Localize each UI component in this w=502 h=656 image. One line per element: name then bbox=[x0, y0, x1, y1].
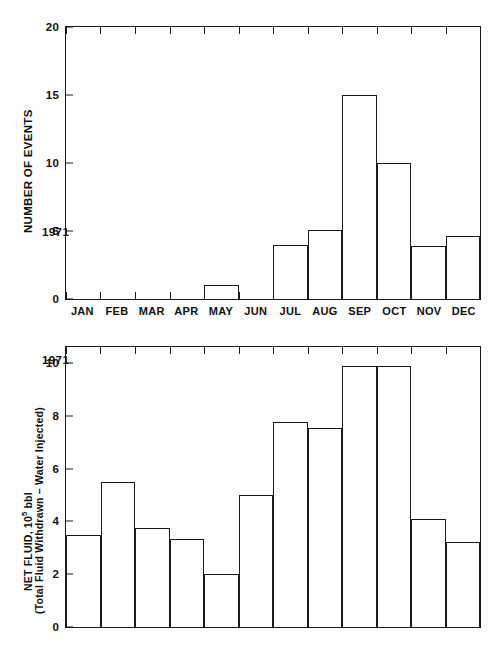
x-tick-mark bbox=[377, 620, 378, 627]
x-tick-mark bbox=[239, 292, 240, 299]
x-tick-mark bbox=[446, 27, 447, 34]
x-tick-mark bbox=[135, 347, 136, 354]
x-tick-mark bbox=[446, 620, 447, 627]
x-tick-mark bbox=[204, 27, 205, 34]
year-annotation-bottom: 1971 bbox=[42, 354, 69, 366]
x-tick-mark bbox=[170, 27, 171, 34]
bar-sep bbox=[342, 366, 377, 628]
y-tick-mark bbox=[66, 299, 73, 300]
x-tick-mark bbox=[204, 347, 205, 354]
bar-aug bbox=[308, 428, 343, 627]
bar-slot bbox=[66, 347, 101, 627]
bar-slot bbox=[377, 347, 412, 627]
y-tick-label: 0 bbox=[52, 621, 66, 633]
bar-dec bbox=[446, 236, 481, 299]
y-tick-mark bbox=[66, 574, 73, 575]
x-tick-mark bbox=[342, 292, 343, 299]
x-tick-mark bbox=[66, 292, 67, 299]
x-tick-mark bbox=[100, 27, 101, 34]
bar-jul bbox=[273, 422, 308, 627]
x-axis-labels-top: JANFEBMARAPRMAYJUNJULAUGSEPOCTNOVDEC bbox=[65, 302, 481, 322]
bar-series-top bbox=[66, 27, 480, 299]
x-tick-mark bbox=[273, 347, 274, 354]
x-tick-mark bbox=[135, 27, 136, 34]
y-tick-label: 8 bbox=[52, 410, 66, 422]
y-axis-title-top: NUMBER OF EVENTS bbox=[22, 109, 34, 233]
y-axis-title-bottom-pre: NET FLUID, 10 bbox=[22, 516, 34, 591]
y-tick-label: 20 bbox=[46, 21, 66, 33]
bar-slot bbox=[204, 27, 239, 299]
x-tick-mark bbox=[308, 292, 309, 299]
y-axis-title-bottom-line2: (Total Fluid Withdrawn – Water Injected) bbox=[33, 407, 45, 614]
y-tick-mark bbox=[66, 521, 73, 522]
x-tick-mark bbox=[480, 347, 481, 354]
bar-jun bbox=[239, 495, 274, 627]
bar-slot bbox=[308, 347, 343, 627]
y-tick-mark bbox=[66, 468, 73, 469]
x-tick-mark bbox=[204, 292, 205, 299]
bar-slot bbox=[273, 347, 308, 627]
bar-slot bbox=[342, 27, 377, 299]
x-tick-mark bbox=[239, 620, 240, 627]
y-tick-mark bbox=[66, 627, 73, 628]
x-tick-mark bbox=[170, 347, 171, 354]
x-tick-mark bbox=[135, 292, 136, 299]
x-tick-mark bbox=[480, 27, 481, 34]
x-tick-mark bbox=[446, 292, 447, 299]
x-tick-mark bbox=[480, 292, 481, 299]
bar-aug bbox=[308, 230, 343, 299]
x-tick-mark bbox=[411, 27, 412, 34]
x-tick-mark bbox=[342, 620, 343, 627]
x-axis-label-apr: APR bbox=[169, 302, 204, 322]
y-tick-label: 2 bbox=[52, 568, 66, 580]
bar-slot bbox=[342, 347, 377, 627]
x-tick-mark bbox=[308, 620, 309, 627]
x-tick-mark bbox=[100, 620, 101, 627]
bar-feb bbox=[101, 482, 136, 627]
x-axis-label-jun: JUN bbox=[238, 302, 273, 322]
x-axis-label-jan: JAN bbox=[65, 302, 100, 322]
bar-slot bbox=[101, 27, 136, 299]
x-tick-mark bbox=[411, 620, 412, 627]
x-tick-mark bbox=[273, 620, 274, 627]
y-tick-label: 0 bbox=[52, 293, 66, 305]
y-tick-mark bbox=[66, 415, 73, 416]
x-tick-mark bbox=[66, 27, 67, 34]
chart-number-of-events: NUMBER OF EVENTS 05101520 1971 JANFEBMAR… bbox=[0, 8, 502, 328]
x-tick-mark bbox=[135, 620, 136, 627]
y-axis-title-bottom-exponent: 5 bbox=[20, 512, 29, 516]
y-axis-title-bottom-post: bbl bbox=[22, 492, 34, 511]
bar-nov bbox=[411, 519, 446, 627]
bar-slot bbox=[411, 27, 446, 299]
y-tick-label: 10 bbox=[46, 157, 66, 169]
bar-oct bbox=[377, 163, 412, 299]
bar-dec bbox=[446, 542, 481, 627]
x-tick-mark bbox=[170, 620, 171, 627]
x-tick-mark bbox=[239, 347, 240, 354]
bar-slot bbox=[170, 347, 205, 627]
bar-slot bbox=[377, 27, 412, 299]
x-tick-mark bbox=[480, 620, 481, 627]
y-tick-mark bbox=[66, 27, 73, 28]
x-axis-label-jul: JUL bbox=[273, 302, 308, 322]
x-tick-mark bbox=[100, 292, 101, 299]
y-tick-label: 15 bbox=[46, 89, 66, 101]
bar-slot bbox=[308, 27, 343, 299]
bar-may bbox=[204, 574, 239, 627]
bar-slot bbox=[101, 347, 136, 627]
bar-slot bbox=[446, 27, 481, 299]
bar-jul bbox=[273, 245, 308, 299]
bar-slot bbox=[135, 27, 170, 299]
bar-slot bbox=[204, 347, 239, 627]
plot-area-bottom: 0246810 bbox=[65, 346, 481, 628]
x-tick-mark bbox=[239, 27, 240, 34]
x-axis-label-mar: MAR bbox=[134, 302, 169, 322]
y-axis-title-bottom-line1: NET FLUID, 105 bbl bbox=[20, 492, 34, 591]
x-tick-mark bbox=[204, 620, 205, 627]
x-axis-label-may: MAY bbox=[204, 302, 239, 322]
x-axis-label-oct: OCT bbox=[377, 302, 412, 322]
bar-mar bbox=[135, 528, 170, 627]
x-tick-mark bbox=[308, 347, 309, 354]
bar-slot bbox=[446, 347, 481, 627]
x-tick-mark bbox=[66, 620, 67, 627]
